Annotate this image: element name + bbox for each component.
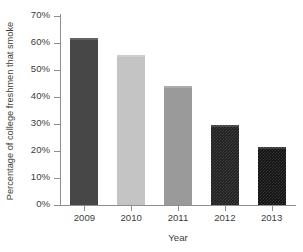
- x-axis-tick-mark: [225, 206, 226, 211]
- x-axis-tick-label: 2009: [61, 212, 107, 223]
- x-axis-tick-label: 2011: [155, 212, 201, 223]
- x-axis-title: Year: [61, 232, 295, 243]
- bar-top-highlight: [164, 86, 192, 88]
- bar-texture-overlay: [258, 147, 286, 205]
- y-axis-tick-label: 10%: [6, 171, 50, 182]
- y-axis-tick-mark: [54, 205, 60, 206]
- x-axis-tick-label: 2013: [249, 212, 295, 223]
- y-axis-title: Percentage of college freshmen that smok…: [0, 0, 20, 222]
- y-axis-tick-mark: [54, 70, 60, 71]
- y-axis-tick-mark: [54, 124, 60, 125]
- bar-chart-figure: Percentage of college freshmen that smok…: [0, 0, 303, 252]
- x-axis-tick-mark: [84, 206, 85, 211]
- y-axis-tick-label: 0%: [6, 198, 50, 209]
- bar-fill: [117, 55, 145, 205]
- bar-top-highlight: [211, 125, 239, 127]
- bar-top-highlight: [258, 147, 286, 149]
- bar-2012: [211, 125, 239, 205]
- y-axis-tick-label: 60%: [6, 36, 50, 47]
- x-axis-tick-mark: [178, 206, 179, 211]
- y-axis-tick-label: 30%: [6, 117, 50, 128]
- x-axis-tick-label: 2010: [108, 212, 154, 223]
- y-axis-tick-mark: [54, 178, 60, 179]
- bar-top-highlight: [70, 38, 98, 40]
- bar-fill: [70, 38, 98, 205]
- bar-2013: [258, 147, 286, 205]
- y-axis-tick-label: 50%: [6, 63, 50, 74]
- bar-2011: [164, 86, 192, 205]
- x-axis-tick-mark: [131, 206, 132, 211]
- x-axis-tick-mark: [272, 206, 273, 211]
- y-axis-tick-mark: [54, 43, 60, 44]
- y-axis-tick-label: 40%: [6, 90, 50, 101]
- y-axis-tick-label: 70%: [6, 9, 50, 20]
- x-axis-tick-label: 2012: [202, 212, 248, 223]
- bar-2010: [117, 55, 145, 205]
- bar-top-highlight: [117, 55, 145, 57]
- y-axis-tick-mark: [54, 97, 60, 98]
- bar-texture-overlay: [211, 125, 239, 205]
- plot-area: [61, 16, 295, 205]
- bar-2009: [70, 38, 98, 205]
- bar-fill: [164, 86, 192, 205]
- y-axis-tick-label: 20%: [6, 144, 50, 155]
- y-axis-tick-mark: [54, 151, 60, 152]
- y-axis-tick-mark: [54, 16, 60, 17]
